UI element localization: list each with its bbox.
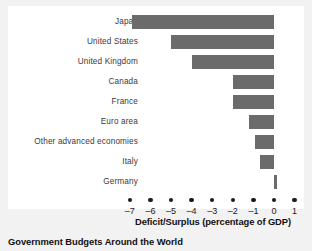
axis-tick-label: 0 (264, 206, 284, 216)
axis-tick-label: –2 (223, 206, 243, 216)
axis-tick-dot (210, 198, 214, 202)
axis-tick-dot (251, 198, 255, 202)
axis-tick-label: –7 (120, 206, 140, 216)
figure-caption: Government Budgets Around the World (8, 236, 183, 247)
axis-tick-label: –3 (202, 206, 222, 216)
axis-tick-label: –4 (182, 206, 202, 216)
axis-tick-label: –6 (140, 206, 160, 216)
axis-tick-label: 1 (285, 206, 305, 216)
bar (233, 75, 274, 89)
bar (255, 135, 274, 149)
category-label: Euro area (8, 117, 138, 127)
plot-card: JapanUnited StatesUnited KingdomCanadaFr… (8, 6, 304, 209)
axis-tick-dot (148, 198, 152, 202)
category-label: Japan (8, 17, 138, 27)
bar (132, 15, 274, 29)
axis-tick-dot (128, 198, 132, 202)
category-label: Other advanced economies (8, 137, 138, 147)
axis-tick-dot (231, 198, 235, 202)
category-label: United Kingdom (8, 57, 138, 67)
category-label: Italy (8, 157, 138, 167)
axis-tick-dot (292, 198, 296, 202)
axis-tick-label: –5 (161, 206, 181, 216)
axis-tick-dot (189, 198, 193, 202)
bar (171, 35, 274, 49)
bar (274, 175, 277, 189)
bar-chart: JapanUnited StatesUnited KingdomCanadaFr… (8, 6, 304, 209)
bar (260, 155, 274, 169)
bar (192, 55, 274, 69)
category-label: Germany (8, 177, 138, 187)
figure-container: JapanUnited StatesUnited KingdomCanadaFr… (0, 0, 312, 251)
axis-tick-label: –1 (243, 206, 263, 216)
category-label: Canada (8, 77, 138, 87)
bar (233, 95, 274, 109)
bar (249, 115, 274, 129)
x-axis-title: Deficit/Surplus (percentage of GDP) (118, 216, 308, 227)
category-label: United States (8, 37, 138, 47)
axis-tick-dot (169, 198, 173, 202)
category-label: France (8, 97, 138, 107)
axis-tick-dot (272, 198, 276, 202)
